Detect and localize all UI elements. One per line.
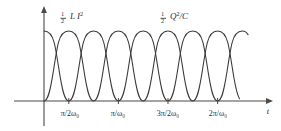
y-axis [41, 6, 47, 126]
x-axis-label: t [267, 106, 270, 116]
svg-text:1: 1 [61, 10, 64, 17]
fraction-denominator-2: 2 [161, 17, 164, 24]
capacitor-energy-label: 1 2 Q2/C [161, 10, 190, 25]
svg-text:Q2/C: Q2/C [170, 10, 189, 21]
tick-label-3: 2π/ω₀ [209, 109, 228, 118]
svg-text:2: 2 [161, 17, 164, 24]
inductor-energy-exponent: 2 [80, 10, 83, 17]
tick-label-0: π/2ω₀ [61, 109, 80, 118]
lc-oscillator-energy-figure: π/2ω₀ π/ω₀ 3π/2ω₀ 2π/ω₀ t 1 2 [0, 0, 281, 131]
fraction-denominator-1: 2 [61, 17, 64, 24]
fraction-numerator-2: 1 [161, 10, 164, 17]
fraction-numerator-1: 1 [61, 10, 64, 17]
tick-label-2: 3π/2ω₀ [157, 109, 180, 118]
capacitor-energy-curve [44, 31, 248, 101]
capacitor-energy-tail: /C [179, 11, 190, 21]
svg-text:L I2: L I2 [69, 10, 83, 21]
tick-label-1: π/ω₀ [111, 109, 126, 118]
svg-text:1: 1 [161, 10, 164, 17]
svg-text:2: 2 [61, 17, 64, 24]
inductor-energy-label: 1 2 L I2 [61, 10, 84, 25]
inductor-energy-curve [44, 31, 240, 101]
x-axis-tick-labels: π/2ω₀ π/ω₀ 3π/2ω₀ 2π/ω₀ [61, 109, 228, 118]
